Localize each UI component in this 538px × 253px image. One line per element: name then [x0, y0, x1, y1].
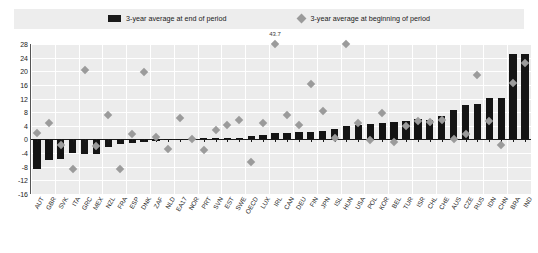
diamond-oecd — [247, 157, 255, 165]
bar-hun — [343, 126, 350, 139]
y-axis-tick-label: -8 — [22, 163, 28, 170]
y-axis-tick-label: 0 — [24, 136, 28, 143]
gridline-vertical — [198, 44, 199, 194]
gridline-horizontal — [31, 58, 531, 59]
gridline-vertical — [79, 44, 80, 194]
x-axis-label-svn: SVN — [212, 196, 224, 211]
x-axis-tick-mark — [311, 139, 312, 142]
x-axis-tick-mark — [49, 139, 50, 142]
gridline-vertical — [174, 44, 175, 194]
x-axis-tick-mark — [299, 139, 300, 142]
x-axis-label-svk: SVK — [57, 196, 69, 210]
gridline-vertical — [102, 44, 103, 194]
x-axis-label-prt: PRT — [200, 196, 212, 210]
diamond-swe — [235, 116, 243, 124]
diamond-nld — [164, 144, 172, 152]
diamond-esp — [128, 130, 136, 138]
gridline-vertical — [245, 44, 246, 194]
x-axis-tick-mark — [358, 139, 359, 142]
x-axis-tick-mark — [108, 139, 109, 142]
bar-bel — [390, 122, 397, 139]
x-axis-label-gbr: GBR — [45, 196, 57, 211]
diamond-ea17 — [176, 114, 184, 122]
x-axis-label-kor: KOR — [378, 196, 390, 211]
gridline-horizontal — [31, 167, 531, 168]
x-axis-label-can: CAN — [283, 196, 295, 211]
gridline-vertical — [293, 44, 294, 194]
bar-irl — [271, 133, 278, 139]
x-axis-label-chl: CHL — [426, 196, 438, 210]
gridline-vertical — [31, 44, 32, 194]
bar-bra — [509, 54, 516, 140]
x-axis-tick-mark — [216, 139, 217, 142]
x-axis-tick-mark — [168, 139, 169, 142]
plot-area — [31, 44, 531, 194]
x-axis-label-nor: NOR — [188, 196, 201, 212]
x-axis-tick-mark — [120, 139, 121, 142]
x-axis-tick-mark — [525, 139, 526, 142]
gridline-vertical — [317, 44, 318, 194]
y-axis-tick-label: 28 — [20, 41, 28, 48]
x-axis-label-bra: BRA — [510, 196, 522, 211]
diamond-fin — [307, 80, 315, 88]
gridline-vertical — [436, 44, 437, 194]
gridline-vertical — [388, 44, 389, 194]
x-axis-tick-mark — [287, 139, 288, 142]
x-axis-label-ea17: EA17 — [175, 196, 188, 213]
x-axis-label-ita: ITA — [71, 196, 81, 207]
x-axis-tick-mark — [180, 139, 181, 142]
x-axis-label-deu: DEU — [295, 196, 307, 211]
x-axis-tick-mark — [132, 139, 133, 142]
x-axis-label-fin: FIN — [309, 196, 320, 208]
gridline-horizontal — [31, 153, 531, 154]
diamond-dnk — [140, 68, 148, 76]
gridline-vertical — [507, 44, 508, 194]
gridline-horizontal — [31, 71, 531, 72]
x-axis-label-jpn: JPN — [320, 196, 332, 210]
y-axis-tick-label: 4 — [24, 122, 28, 129]
gridline-vertical — [269, 44, 270, 194]
x-axis-tick-mark — [227, 139, 228, 142]
gridline-vertical — [531, 44, 532, 194]
x-axis-label-tur: TUR — [402, 196, 414, 211]
y-axis-tick-label: -4 — [22, 150, 28, 157]
diamond-rus — [473, 71, 481, 79]
bar-jpn — [319, 131, 326, 140]
x-axis-label-cze: CZE — [462, 196, 474, 210]
diamond-kor — [378, 109, 386, 117]
y-axis-tick-label: 20 — [20, 68, 28, 75]
y-axis-tick-label: -12 — [18, 177, 28, 184]
gridline-horizontal — [31, 85, 531, 86]
x-axis-label-nzl: NZL — [105, 196, 117, 210]
bar-gbr — [45, 139, 52, 159]
x-axis-label-usa: USA — [355, 196, 367, 211]
x-axis-tick-mark — [85, 139, 86, 142]
diamond-hun — [342, 40, 350, 48]
gridline-vertical — [460, 44, 461, 194]
diamond-irl — [271, 40, 279, 48]
bar-kor — [379, 123, 386, 139]
x-axis-tick-mark — [263, 139, 264, 142]
x-axis-label-aus: AUS — [450, 196, 462, 211]
x-axis-label-hun: HUN — [343, 196, 355, 211]
x-axis-tick-mark — [513, 139, 514, 142]
bar-usa — [355, 125, 362, 139]
x-axis-label-aut: AUT — [34, 196, 46, 210]
x-axis-tick-mark — [477, 139, 478, 142]
x-axis-label-dnk: DNK — [140, 196, 152, 211]
diamond-deu — [295, 121, 303, 129]
diamond-est — [223, 121, 231, 129]
diamond-chn — [497, 141, 505, 149]
gridline-horizontal — [31, 180, 531, 181]
y-axis-tick-label: 16 — [20, 81, 28, 88]
y-axis-tick-label: 12 — [20, 95, 28, 102]
x-axis-tick-mark — [418, 139, 419, 142]
gridline-horizontal — [31, 44, 531, 45]
plot-area-wrapper: 2824201612840-4-8-12-16 AUTGBRSVKITAGRCM… — [0, 0, 538, 253]
x-axis-tick-mark — [406, 139, 407, 142]
x-axis-tick-mark — [442, 139, 443, 142]
x-axis-tick-mark — [382, 139, 383, 142]
gridline-vertical — [483, 44, 484, 194]
x-axis-label-zaf: ZAF — [153, 196, 165, 210]
x-axis-tick-mark — [323, 139, 324, 142]
